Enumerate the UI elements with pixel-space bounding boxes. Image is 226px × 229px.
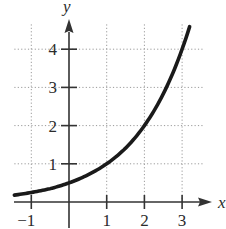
y-tick-label: 1 (49, 155, 58, 174)
y-axis-label: y (61, 0, 71, 16)
y-tick-label: 2 (49, 117, 58, 136)
y-axis-arrow-icon (65, 19, 74, 33)
y-tick-label: 3 (49, 78, 58, 97)
x-tick-label: 3 (178, 211, 187, 229)
x-tick-label: −1 (17, 211, 35, 229)
x-axis-arrow-icon (198, 198, 212, 207)
grid-lines (14, 24, 203, 202)
y-tick-label: 4 (49, 40, 58, 59)
x-tick-label: 2 (140, 211, 149, 229)
x-axis-label: x (217, 193, 226, 212)
axis-ticks: −11231234 (17, 40, 186, 229)
x-tick-label: 1 (102, 211, 111, 229)
function-curve (14, 27, 189, 195)
exponential-graph: −11231234 x y (0, 0, 226, 229)
